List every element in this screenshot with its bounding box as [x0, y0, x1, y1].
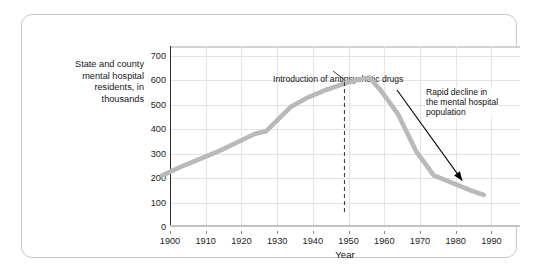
- gridline-vertical: [420, 46, 421, 227]
- gridline-horizontal: [170, 56, 520, 57]
- y-tick-label: 300: [136, 149, 166, 159]
- gridline-vertical: [491, 46, 492, 227]
- y-tick-label: 400: [136, 124, 166, 134]
- figure-frame: State and county mental hospital residen…: [21, 14, 517, 258]
- x-tick-label: 1990: [471, 236, 511, 246]
- x-tick-label: 1940: [293, 236, 333, 246]
- x-tick-mark: [313, 231, 314, 234]
- x-tick-mark: [384, 231, 385, 234]
- y-tick-label: 100: [136, 198, 166, 208]
- x-tick-label: 1950: [329, 236, 369, 246]
- y-tick-label: 700: [136, 51, 166, 61]
- gridline-vertical: [206, 46, 207, 227]
- x-tick-mark: [491, 231, 492, 234]
- y-tick-label: 0: [136, 222, 166, 232]
- x-axis-spine: [170, 225, 520, 227]
- gridline-horizontal: [170, 129, 520, 130]
- x-tick-mark: [349, 231, 350, 234]
- x-tick-mark: [170, 231, 171, 234]
- gridline-vertical: [241, 46, 242, 227]
- x-tick-mark: [420, 231, 421, 234]
- x-tick-mark: [277, 231, 278, 234]
- x-tick-mark: [241, 231, 242, 234]
- annotation-antipsychotic-drugs: Introduction of antipsychotic drugs: [273, 74, 403, 84]
- x-tick-label: 1980: [436, 236, 476, 246]
- y-axis-title: State and county mental hospital residen…: [36, 59, 144, 105]
- y-tick-label: 200: [136, 173, 166, 183]
- gridline-horizontal: [170, 154, 520, 155]
- annotation-rapid-decline: Rapid decline in the mental hospital pop…: [426, 87, 498, 118]
- x-tick-mark: [456, 231, 457, 234]
- x-tick-label: 1960: [364, 236, 404, 246]
- x-tick-label: 1900: [150, 236, 190, 246]
- y-tick-label: 500: [136, 100, 166, 110]
- x-tick-label: 1930: [257, 236, 297, 246]
- y-tick-label: 600: [136, 75, 166, 85]
- plot-top-rule: [170, 46, 520, 48]
- x-axis-tick-labels: 1900191019201930194019501960197019801990: [170, 231, 520, 245]
- gridline-horizontal: [170, 203, 520, 204]
- x-axis-title: Year: [170, 249, 520, 260]
- x-tick-label: 1910: [186, 236, 226, 246]
- y-axis-tick-labels: 0100200300400500600700: [134, 46, 166, 227]
- x-tick-label: 1970: [400, 236, 440, 246]
- gridline-horizontal: [170, 178, 520, 179]
- y-axis-spine: [170, 46, 171, 227]
- x-tick-label: 1920: [221, 236, 261, 246]
- gridline-vertical: [456, 46, 457, 227]
- x-tick-mark: [206, 231, 207, 234]
